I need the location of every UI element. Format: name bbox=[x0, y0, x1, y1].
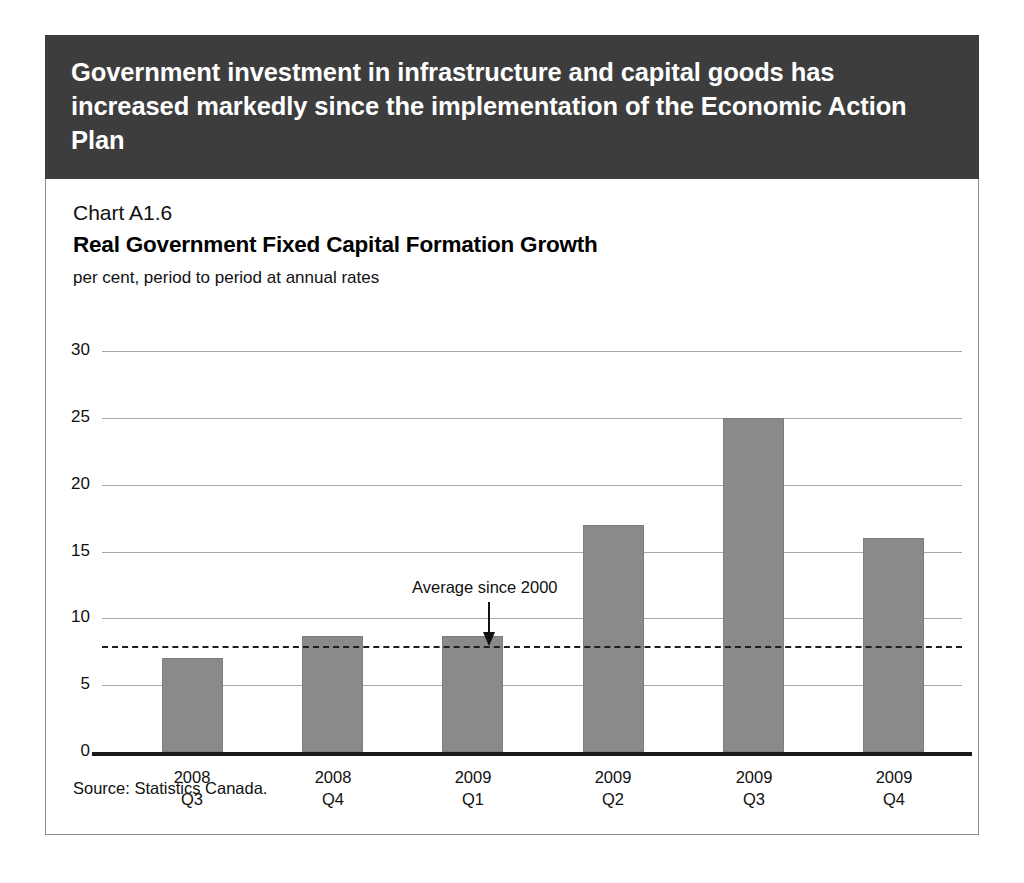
x-axis-tick-label: 2009Q2 bbox=[563, 766, 663, 810]
x-axis-tick-label: 2009Q4 bbox=[844, 766, 944, 810]
annotation-label-average-since-2000: Average since 2000 bbox=[412, 578, 558, 597]
bar bbox=[442, 636, 503, 752]
y-axis-tick-label: 0 bbox=[50, 741, 90, 761]
x-tick-year: 2008 bbox=[283, 766, 383, 788]
y-axis-tick-label: 30 bbox=[50, 340, 90, 360]
gridline bbox=[102, 552, 962, 553]
bar bbox=[723, 418, 784, 752]
y-axis-tick-label: 5 bbox=[50, 674, 90, 694]
x-tick-quarter: Q1 bbox=[423, 788, 523, 810]
gridline bbox=[102, 485, 962, 486]
source-note: Source: Statistics Canada. bbox=[73, 779, 267, 798]
x-axis-baseline bbox=[92, 752, 972, 756]
y-axis-tick-label: 10 bbox=[50, 607, 90, 627]
x-axis-tick-label: 2008Q4 bbox=[283, 766, 383, 810]
gridline bbox=[102, 685, 962, 686]
x-tick-quarter: Q3 bbox=[704, 788, 804, 810]
x-tick-quarter: Q4 bbox=[844, 788, 944, 810]
chart-figure: Government investment in infrastructure … bbox=[45, 35, 979, 835]
chart-panel: Chart A1.6 Real Government Fixed Capital… bbox=[45, 179, 979, 835]
gridline bbox=[102, 618, 962, 619]
x-tick-quarter: Q2 bbox=[563, 788, 663, 810]
y-axis-tick-label: 20 bbox=[50, 474, 90, 494]
x-tick-quarter: Q4 bbox=[283, 788, 383, 810]
x-tick-year: 2009 bbox=[844, 766, 944, 788]
y-axis-tick-label: 15 bbox=[50, 541, 90, 561]
plot-area: 051015202530Average since 20002008Q32008… bbox=[46, 179, 980, 835]
x-tick-year: 2009 bbox=[423, 766, 523, 788]
y-axis-tick-label: 25 bbox=[50, 407, 90, 427]
banner-headline: Government investment in infrastructure … bbox=[71, 55, 953, 157]
bar bbox=[583, 525, 644, 752]
figure-page: Government investment in infrastructure … bbox=[0, 0, 1024, 883]
bar bbox=[302, 636, 363, 752]
x-tick-year: 2009 bbox=[704, 766, 804, 788]
annotation-arrow-icon bbox=[482, 602, 496, 652]
x-tick-year: 2009 bbox=[563, 766, 663, 788]
x-axis-tick-label: 2009Q1 bbox=[423, 766, 523, 810]
bar bbox=[863, 538, 924, 752]
header-banner: Government investment in infrastructure … bbox=[45, 35, 979, 179]
average-reference-line bbox=[102, 646, 962, 648]
gridline bbox=[102, 351, 962, 352]
bar bbox=[162, 658, 223, 752]
gridline bbox=[102, 418, 962, 419]
x-axis-tick-label: 2009Q3 bbox=[704, 766, 804, 810]
